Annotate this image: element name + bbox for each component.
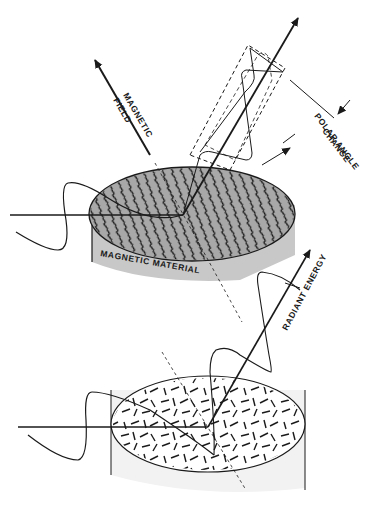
unmagnetized-material-cylinder — [111, 376, 305, 492]
random-domains — [113, 378, 303, 470]
diagram-canvas: MAGNETIC FIELD POLAR ANGLE CHANGE MAGNET… — [0, 0, 376, 508]
label-radiant-energy: RADIANT ENERGY — [280, 252, 329, 332]
